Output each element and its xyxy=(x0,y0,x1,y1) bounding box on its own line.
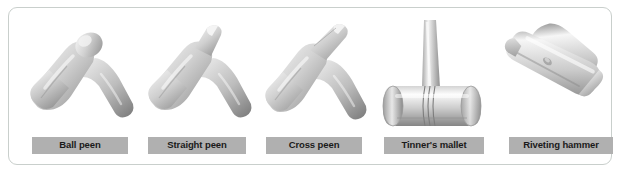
tool-item-riveting-hammer: Riveting hammer xyxy=(483,12,613,160)
tool-label-straight-peen: Straight peen xyxy=(148,137,246,154)
cross-peen-hammer-icon xyxy=(250,12,380,130)
tool-item-cross-peen: Cross peen xyxy=(250,12,380,160)
tool-item-straight-peen: Straight peen xyxy=(133,12,263,160)
tinners-mallet-icon xyxy=(367,12,497,130)
ball-peen-hammer-icon xyxy=(15,12,145,130)
tool-label-tinners-mallet: Tinner's mallet xyxy=(384,137,484,154)
straight-peen-hammer-icon xyxy=(133,12,263,130)
tool-label-ball-peen: Ball peen xyxy=(32,137,128,154)
tool-label-riveting-hammer: Riveting hammer xyxy=(509,137,613,154)
tool-item-ball-peen: Ball peen xyxy=(15,12,145,160)
tool-illustration-row: Ball peen xyxy=(9,8,611,164)
riveting-hammer-icon xyxy=(483,12,613,130)
tool-item-tinners-mallet: Tinner's mallet xyxy=(367,12,497,160)
tool-label-cross-peen: Cross peen xyxy=(266,137,362,154)
hammer-types-figure-panel: Ball peen xyxy=(8,7,612,165)
